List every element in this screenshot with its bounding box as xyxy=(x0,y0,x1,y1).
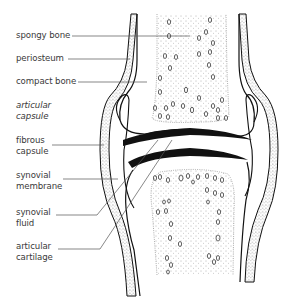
label-spongy-bone: spongy bone xyxy=(16,30,70,41)
label-synovial-membrane: synovial membrane xyxy=(16,170,62,191)
label-compact-bone: compact bone xyxy=(16,76,76,87)
label-articular-capsule: articular capsule xyxy=(16,100,51,121)
label-synovial-fluid: synovial fluid xyxy=(16,207,51,228)
joint-diagram: spongy bone periosteum compact bone arti… xyxy=(0,0,287,299)
label-fibrous-capsule: fibrous capsule xyxy=(16,135,48,156)
label-periosteum: periosteum xyxy=(16,53,64,64)
label-articular-cartilage: articular cartilage xyxy=(16,241,53,262)
